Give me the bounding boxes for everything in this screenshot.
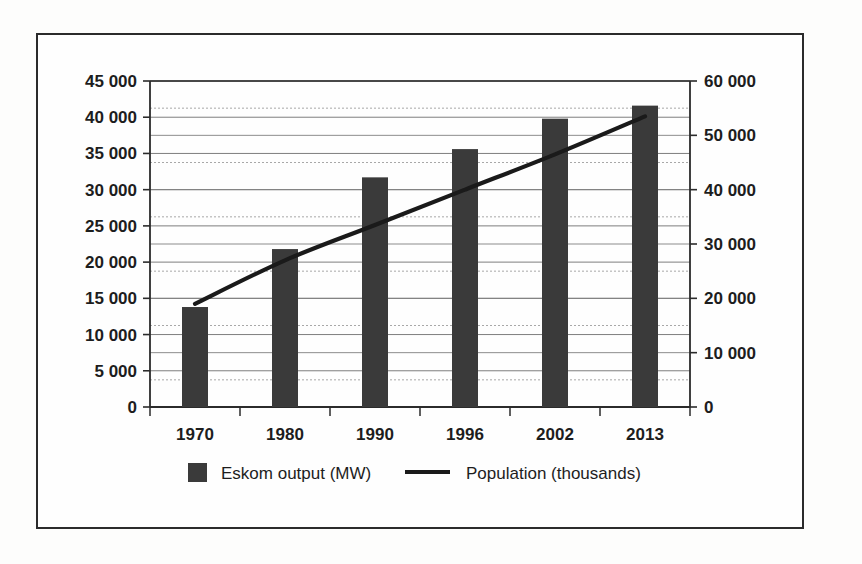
bar (542, 119, 568, 407)
x-axis-category-label: 1990 (356, 425, 394, 444)
legend-label-eskom-output: Eskom output (MW) (221, 464, 371, 483)
right-axis-tick-label: 20 000 (704, 289, 756, 308)
bar (362, 177, 388, 407)
right-axis-tick-label: 50 000 (704, 126, 756, 145)
right-axis-tick-label: 40 000 (704, 181, 756, 200)
bar (182, 307, 208, 407)
left-axis-tick-label: 30 000 (85, 181, 137, 200)
page-canvas: 05 00010 00015 00020 00025 00030 00035 0… (0, 0, 862, 564)
left-axis-tick-label: 20 000 (85, 253, 137, 272)
x-axis-category-label: 2002 (536, 425, 574, 444)
scan-artifact-text (600, 0, 820, 10)
left-axis-tick-label: 25 000 (85, 217, 137, 236)
right-axis-tick-label: 10 000 (704, 344, 756, 363)
chart-figure-frame: 05 00010 00015 00020 00025 00030 00035 0… (36, 33, 804, 529)
bar (632, 106, 658, 407)
right-axis-tick-label: 0 (704, 398, 713, 417)
left-axis-tick-label: 35 000 (85, 144, 137, 163)
eskom-population-chart: 05 00010 00015 00020 00025 00030 00035 0… (38, 35, 802, 527)
plot-background (38, 35, 802, 527)
left-axis-tick-label: 15 000 (85, 289, 137, 308)
left-axis-tick-label: 40 000 (85, 108, 137, 127)
bar (272, 249, 298, 407)
x-axis-category-label: 1970 (176, 425, 214, 444)
legend-swatch-eskom-output (188, 463, 207, 482)
right-axis-tick-label: 60 000 (704, 72, 756, 91)
left-axis-tick-label: 45 000 (85, 72, 137, 91)
legend-label-population: Population (thousands) (466, 464, 641, 483)
x-axis-category-label: 2013 (626, 425, 664, 444)
x-axis-category-label: 1980 (266, 425, 304, 444)
left-axis-tick-label: 0 (128, 398, 137, 417)
left-axis-tick-label: 5 000 (94, 362, 137, 381)
left-axis-tick-label: 10 000 (85, 326, 137, 345)
x-axis-category-label: 1996 (446, 425, 484, 444)
right-axis-tick-label: 30 000 (704, 235, 756, 254)
